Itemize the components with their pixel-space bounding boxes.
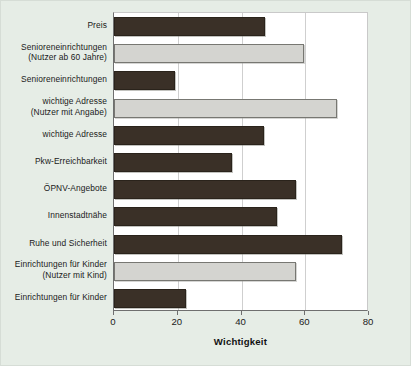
bar [114,153,232,172]
category-label: ÖPNV-Angebote [0,183,107,194]
category-label: Einrichtungen für Kinder(Nutzer mit Kind… [0,259,107,280]
x-tick-label: 0 [93,316,133,327]
category-label-line: Innenstadtnähe [0,210,107,221]
x-tick-mark [177,311,178,315]
category-label-line: Ruhe und Sicherheit [0,238,107,249]
bar [114,289,186,308]
category-label-line: Preis [0,20,107,31]
x-tick-label: 20 [157,316,197,327]
category-label: wichtige Adresse [0,129,107,140]
category-label-line: wichtige Adresse [0,129,107,140]
category-label: Ruhe und Sicherheit [0,238,107,249]
bar [114,262,296,281]
category-label-line: ÖPNV-Angebote [0,183,107,194]
x-tick-mark [304,311,305,315]
bar [114,44,304,63]
chart-figure: PreisSenioreneinrichtungen(Nutzer ab 60 … [0,0,411,366]
category-label-line: Einrichtungen für Kinder [0,259,107,270]
category-label-line: Senioreneinrichtungen [0,42,107,53]
category-label-line: (Nutzer ab 60 Jahre) [0,52,107,63]
category-label-line: Einrichtungen für Kinder [0,292,107,303]
category-label: Innenstadtnähe [0,210,107,221]
bar [114,71,175,90]
bar [114,126,264,145]
gridline-60 [305,13,306,310]
category-label: Preis [0,20,107,31]
category-label-line: Pkw-Erreichbarkeit [0,156,107,167]
category-label-line: (Nutzer mit Kind) [0,270,107,281]
x-tick-label: 80 [348,316,388,327]
category-label-line: wichtige Adresse [0,96,107,107]
bar [114,207,277,226]
x-tick-mark [368,311,369,315]
x-tick-label: 60 [284,316,324,327]
bar [114,99,337,118]
x-tick-mark [113,311,114,315]
bar [114,180,296,199]
bar [114,17,265,36]
category-label-line: (Nutzer mit Angabe) [0,107,107,118]
category-label: Senioreneinrichtungen [0,74,107,85]
bar [114,235,342,254]
x-tick-label: 40 [221,316,261,327]
plot-area [113,12,368,311]
category-label: wichtige Adresse(Nutzer mit Angabe) [0,96,107,117]
category-label: Einrichtungen für Kinder [0,292,107,303]
category-label-line: Senioreneinrichtungen [0,74,107,85]
category-label: Senioreneinrichtungen(Nutzer ab 60 Jahre… [0,42,107,63]
category-label: Pkw-Erreichbarkeit [0,156,107,167]
x-tick-mark [241,311,242,315]
x-axis-title: Wichtigkeit [113,336,368,347]
